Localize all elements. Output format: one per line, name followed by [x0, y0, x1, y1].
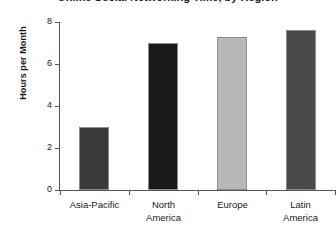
bar	[217, 37, 247, 190]
bar	[148, 43, 178, 190]
y-tick-mark	[55, 106, 60, 107]
plot-area: 02468	[60, 22, 335, 190]
x-tick-label: Europe	[198, 199, 267, 212]
x-tick-label: Latin America	[266, 199, 335, 224]
bar	[79, 127, 109, 190]
chart-title: Online Social Networking Time, by Region	[0, 0, 335, 3]
y-tick-label: 2	[34, 143, 52, 152]
x-tick-mark	[129, 190, 130, 195]
x-tick-mark	[266, 190, 267, 195]
x-tick-label: Asia-Pacific	[60, 199, 129, 212]
x-axis-line	[59, 190, 335, 191]
y-tick-mark	[55, 22, 60, 23]
bar	[286, 30, 316, 190]
y-tick-label: 6	[34, 59, 52, 68]
y-tick-label: 8	[34, 17, 52, 26]
y-tick-mark	[55, 148, 60, 149]
y-tick-label: 4	[34, 101, 52, 110]
x-tick-mark	[198, 190, 199, 195]
y-axis-title: Hours per Month	[18, 18, 28, 108]
x-axis-labels: Asia-PacificNorth AmericaEuropeLatin Ame…	[60, 199, 335, 239]
x-tick-label: North America	[129, 199, 198, 224]
y-tick-label: 0	[34, 185, 52, 194]
y-tick-mark	[55, 64, 60, 65]
x-tick-mark	[60, 190, 61, 195]
